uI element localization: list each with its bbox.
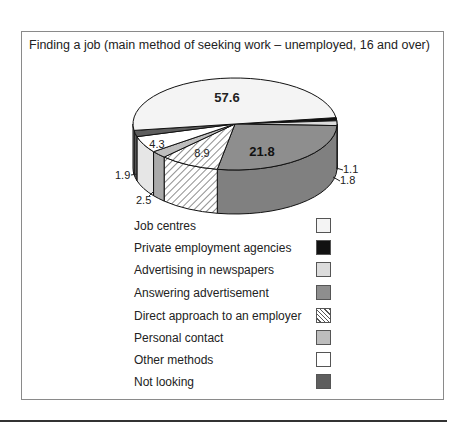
pie-side-5 <box>154 152 165 201</box>
legend-label: Advertising in newspapers <box>134 263 274 277</box>
legend-item-newspapers: Advertising in newspapers <box>134 262 334 280</box>
value-label-other: 4.3 <box>149 138 164 150</box>
legend-item-answering: Answering advertisement <box>134 285 334 303</box>
value-label-direct: 8.9 <box>194 147 209 159</box>
legend-item-personal-contact: Personal contact <box>134 330 334 348</box>
legend-swatch <box>316 374 331 389</box>
pie-side-0 <box>133 124 134 174</box>
legend-label: Direct approach to an employer <box>134 309 301 323</box>
legend-swatch <box>316 352 331 367</box>
legend-label: Not looking <box>134 375 194 389</box>
legend-label: Job centres <box>134 219 196 233</box>
legend-item-not-looking: Not looking <box>134 374 334 392</box>
value-label-answering: 21.8 <box>249 144 274 159</box>
bottom-rule <box>0 420 447 422</box>
legend-item-direct-approach: Direct approach to an employer <box>134 308 334 326</box>
legend-swatch <box>316 218 331 233</box>
value-label-newspapers: 1.8 <box>340 174 355 186</box>
value-label-not-looking: 1.9 <box>115 169 130 181</box>
legend-swatch <box>316 262 331 277</box>
legend-label: Answering advertisement <box>134 286 269 300</box>
legend-item-private-agencies: Private employment agencies <box>134 240 334 258</box>
legend-label: Private employment agencies <box>134 241 291 255</box>
legend-swatch <box>316 240 331 255</box>
legend-swatch <box>316 330 331 345</box>
legend-label: Other methods <box>134 353 213 367</box>
legend-item-job-centres: Job centres <box>134 218 334 236</box>
legend-item-other-methods: Other methods <box>134 352 334 370</box>
legend-swatch <box>316 308 331 323</box>
value-label-job-centres: 57.6 <box>214 90 239 105</box>
legend-swatch <box>316 285 331 300</box>
legend-label: Personal contact <box>134 331 223 345</box>
